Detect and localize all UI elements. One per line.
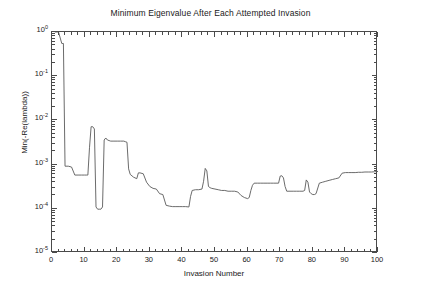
tickmark [351, 249, 352, 252]
tickmark [52, 252, 57, 253]
tickmark [318, 249, 319, 252]
tickmark [292, 32, 293, 35]
tickmark [221, 32, 222, 35]
x-tick-label: 30 [145, 256, 153, 264]
tickmark [351, 32, 352, 35]
tickmark [52, 215, 55, 216]
tickmark [374, 194, 377, 195]
tickmark [374, 62, 377, 63]
tickmark [52, 38, 55, 39]
tickmark [52, 166, 55, 167]
tickmark [97, 249, 98, 252]
tickmark [201, 249, 202, 252]
tickmark [374, 218, 377, 219]
tickmark [110, 249, 111, 252]
tickmark [52, 225, 55, 226]
tickmark [52, 77, 55, 78]
tickmark [52, 173, 55, 174]
tickmark [52, 231, 55, 232]
tickmark [168, 32, 169, 35]
tickmark [52, 137, 55, 138]
tickmark [52, 49, 55, 50]
tickmark [207, 32, 208, 35]
tickmark [77, 249, 78, 252]
tickmark [136, 249, 137, 252]
tickmark [292, 249, 293, 252]
tickmark [240, 32, 241, 35]
tickmark [52, 218, 55, 219]
tickmark [64, 32, 65, 35]
tickmark [374, 221, 377, 222]
tickmark [90, 32, 91, 35]
tickmark [52, 212, 55, 213]
tickmark [374, 210, 377, 211]
tickmark [260, 32, 261, 35]
tickmark [71, 32, 72, 35]
tickmark [175, 32, 176, 35]
tickmark [374, 93, 377, 94]
tickmark [374, 187, 377, 188]
tickmark [194, 32, 195, 35]
tickmark [253, 32, 254, 35]
tickmark [338, 249, 339, 252]
tickmark [52, 133, 55, 134]
tickmark [372, 208, 377, 209]
tickmark [52, 75, 57, 76]
tickmark [374, 177, 377, 178]
tickmark [227, 249, 228, 252]
tickmark [370, 249, 371, 252]
tickmark [234, 32, 235, 35]
tickmark [77, 32, 78, 35]
tickmark [372, 119, 377, 120]
y-tick-label: 10-5 [4, 247, 48, 255]
x-tick-label: 40 [177, 256, 185, 264]
tickmark [58, 32, 59, 35]
tickmark [52, 143, 55, 144]
tickmark [372, 252, 377, 253]
tickmark [52, 187, 55, 188]
tickmark [234, 249, 235, 252]
tickmark [162, 32, 163, 35]
chart-title: Minimum Eigenvalue After Each Attempted … [0, 8, 421, 18]
tickmark [374, 89, 377, 90]
tickmark [344, 32, 345, 35]
tickmark [52, 194, 55, 195]
tickmark [52, 181, 55, 182]
figure-canvas: Minimum Eigenvalue After Each Attempted … [0, 0, 421, 289]
tickmark [110, 32, 111, 35]
tickmark [299, 32, 300, 35]
x-tick-label: 60 [242, 256, 250, 264]
tickmark [52, 208, 57, 209]
tickmark [325, 32, 326, 35]
tickmark [374, 41, 377, 42]
tickmark [266, 32, 267, 35]
tickmark [52, 82, 55, 83]
tickmark [374, 166, 377, 167]
tickmark [52, 177, 55, 178]
tickmark [52, 89, 55, 90]
tickmark [52, 170, 55, 171]
tickmark [374, 54, 377, 55]
tickmark [71, 249, 72, 252]
tickmark [260, 249, 261, 252]
tickmark [377, 32, 378, 35]
tickmark [273, 32, 274, 35]
tickmark [253, 249, 254, 252]
tickmark [305, 249, 306, 252]
tickmark [364, 32, 365, 35]
x-tick-label: 0 [49, 256, 53, 264]
tickmark [181, 32, 182, 35]
tickmark [84, 249, 85, 252]
tickmark [357, 249, 358, 252]
tickmark [52, 33, 55, 34]
tickmark [214, 249, 215, 252]
tickmark [374, 82, 377, 83]
tickmark [374, 181, 377, 182]
tickmark [374, 85, 377, 86]
tickmark [240, 249, 241, 252]
tickmark [221, 249, 222, 252]
x-tick-label: 100 [371, 256, 384, 264]
tickmark [155, 32, 156, 35]
tickmark [374, 133, 377, 134]
tickmark [52, 210, 55, 211]
